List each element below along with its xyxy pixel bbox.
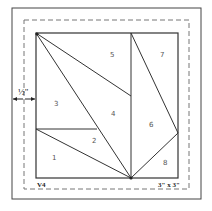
start-point-dot bbox=[35, 32, 38, 35]
pattern-diagram: ½" 1 2 3 4 5 6 7 8 V4 3" x 3" bbox=[0, 0, 212, 211]
piece-label-5: 5 bbox=[110, 51, 114, 59]
piece-labels: 1 2 3 4 5 6 7 8 bbox=[52, 51, 167, 167]
piece-label-6: 6 bbox=[149, 121, 154, 129]
piece-label-8: 8 bbox=[163, 159, 167, 167]
apex-dot bbox=[129, 176, 132, 179]
piece-label-7: 7 bbox=[160, 51, 164, 59]
seam-allowance-marker: ½" bbox=[13, 87, 35, 101]
block-code: V4 bbox=[37, 181, 46, 189]
piece-label-4: 4 bbox=[111, 110, 116, 118]
piece-label-2: 2 bbox=[92, 137, 96, 145]
block-size: 3" x 3" bbox=[158, 181, 180, 189]
seam-allowance-label: ½" bbox=[18, 87, 29, 97]
outer-frame bbox=[12, 8, 201, 199]
piece-label-1: 1 bbox=[52, 154, 56, 162]
piece-label-3: 3 bbox=[54, 100, 58, 108]
